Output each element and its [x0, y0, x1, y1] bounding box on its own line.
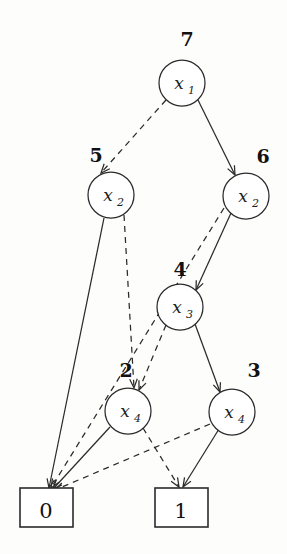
- edges-layer: [49, 100, 235, 490]
- terminal-label-t1: 1: [174, 499, 187, 523]
- node-index-label-n6: 6: [256, 145, 269, 167]
- edge-n7-to-n5-dashed: [101, 100, 166, 173]
- node-index-label-n3: 3: [247, 359, 260, 381]
- node-subscript-n4: 3: [186, 308, 193, 321]
- bdd-node-n7[interactable]: x1: [159, 60, 205, 106]
- node-variable-n2: x: [120, 401, 130, 421]
- node-index-label-n4: 4: [173, 258, 186, 280]
- arrowheads-layer: [47, 164, 235, 490]
- edge-n6-to-n4-solid: [196, 213, 231, 290]
- bdd-node-n6[interactable]: x2: [223, 173, 269, 219]
- node-variable-n3: x: [224, 402, 234, 422]
- node-variable-n4: x: [172, 297, 182, 317]
- node-subscript-n3: 4: [237, 413, 245, 426]
- edge-n2-to-t0-solid: [53, 427, 110, 489]
- terminals-layer: 01: [20, 488, 208, 527]
- node-subscript-n2: 4: [133, 412, 141, 425]
- arrowhead-n2-to-t1: [171, 477, 179, 487]
- bdd-node-n4[interactable]: x3: [157, 284, 203, 330]
- bdd-node-n3[interactable]: x4: [209, 389, 255, 435]
- arrowhead-n4-to-n2: [139, 380, 146, 390]
- node-subscript-n5: 2: [116, 196, 124, 209]
- edge-n5-to-t0-solid: [49, 218, 104, 488]
- node-variable-n7: x: [174, 73, 184, 93]
- bdd-canvas: x17x25x26x34x42x43 01: [0, 0, 287, 554]
- bdd-node-n5[interactable]: x2: [88, 172, 134, 218]
- terminal-label-t0: 0: [39, 499, 52, 523]
- edge-n4-to-n3-solid: [195, 324, 220, 392]
- bdd-figure: x17x25x26x34x42x43 01: [0, 0, 287, 554]
- edge-n7-to-n6-solid: [198, 100, 235, 175]
- node-index-label-n5: 5: [89, 144, 102, 166]
- bdd-node-n2[interactable]: x4: [105, 388, 151, 434]
- terminal-node-t1[interactable]: 1: [155, 488, 208, 527]
- node-variable-n6: x: [238, 186, 248, 206]
- node-index-label-n7: 7: [180, 28, 193, 50]
- terminal-node-t0[interactable]: 0: [20, 488, 73, 527]
- node-subscript-n7: 1: [188, 84, 195, 97]
- nodes-layer: x17x25x26x34x42x43: [88, 28, 270, 435]
- edge-n4-to-n2-dashed: [139, 325, 166, 390]
- node-subscript-n6: 2: [251, 197, 259, 210]
- node-index-label-n2: 2: [119, 359, 132, 381]
- edge-n2-to-t1-dashed: [143, 428, 179, 487]
- node-variable-n5: x: [103, 185, 113, 205]
- arrowhead-n3-to-t1: [183, 477, 191, 487]
- edge-n3-to-t1-solid: [183, 429, 219, 487]
